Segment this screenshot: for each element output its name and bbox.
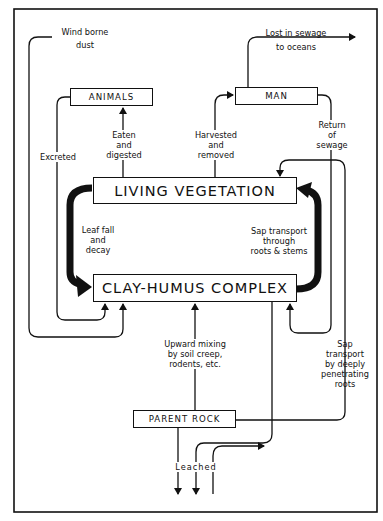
- label-harvested-and-removed: Harvested and removed: [190, 130, 242, 160]
- node-parent-rock: PARENT ROCK: [133, 410, 236, 428]
- node-animals: ANIMALS: [70, 88, 153, 106]
- label-excreted: Excreted: [36, 152, 80, 162]
- label-eaten-and-digested: Eaten and digested: [102, 130, 146, 160]
- label-upward-mixing: Upward mixing by soil creep, rodents, et…: [155, 339, 235, 369]
- sap-transport-arrowhead: [296, 182, 312, 198]
- label-sap-transport-roots-stems: Sap transport through roots & stems: [246, 226, 312, 256]
- nutrient-cycle-diagram: [0, 0, 383, 521]
- node-man: MAN: [235, 87, 318, 105]
- node-living-vegetation: LIVING VEGETATION: [93, 177, 297, 204]
- label-leached: Leached: [170, 462, 222, 472]
- label-leaf-fall-and-decay: Leaf fall and decay: [76, 225, 120, 255]
- label-lost-in-sewage: Lost in sewage to oceans: [255, 26, 337, 54]
- label-wind-borne-dust: Wind borne dust: [52, 26, 118, 52]
- leached-line-3: [213, 446, 263, 452]
- label-deep-root-sap-transport: Sap transport by deeply penetrating root…: [315, 339, 375, 389]
- node-clay-humus-complex: CLAY-HUMUS COMPLEX: [93, 274, 297, 302]
- leaf-fall-arrowhead: [76, 275, 92, 297]
- label-return-of-sewage: Return of sewage: [312, 120, 352, 150]
